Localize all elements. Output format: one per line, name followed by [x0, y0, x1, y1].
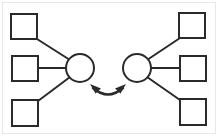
edge-bottom-left-to-hub-left — [38, 77, 70, 101]
leaf-top-left[interactable] — [11, 14, 37, 39]
right-leaf-group — [179, 13, 206, 125]
leaf-bottom-left[interactable] — [12, 100, 38, 126]
hub-right[interactable] — [123, 54, 151, 82]
leaf-bottom-right[interactable] — [180, 99, 206, 125]
left-leaf-group — [11, 14, 38, 126]
leaf-top-right[interactable] — [179, 13, 205, 38]
connector-group — [37, 38, 180, 101]
hub-group — [66, 54, 151, 82]
edge-top-right-to-hub-right — [147, 38, 180, 60]
edge-bottom-right-to-hub-right — [147, 77, 180, 100]
leaf-middle-right[interactable] — [180, 56, 206, 81]
hub-link-arrow — [90, 84, 126, 95]
hub-left[interactable] — [66, 54, 94, 82]
edge-top-left-to-hub-left — [37, 39, 70, 60]
node-link-diagram — [0, 0, 218, 136]
diagram-canvas — [0, 0, 218, 136]
leaf-middle-left[interactable] — [12, 56, 38, 81]
